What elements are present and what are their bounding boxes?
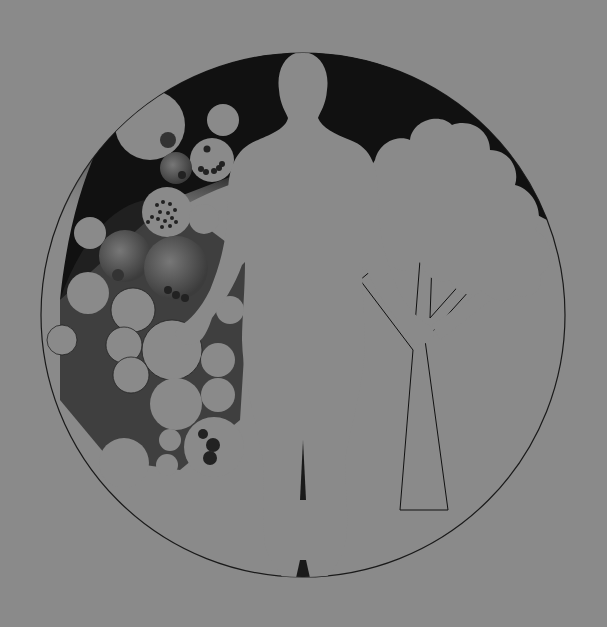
illustration — [0, 0, 607, 627]
illustration-svg — [0, 0, 607, 627]
